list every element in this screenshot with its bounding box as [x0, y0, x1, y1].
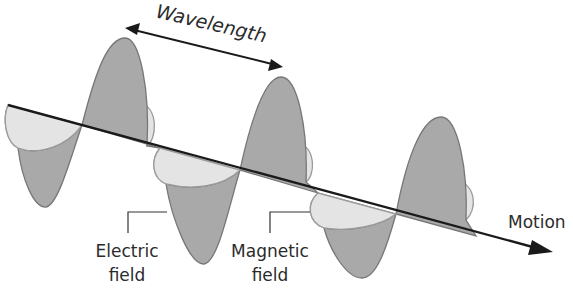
motion-label: Motion	[508, 212, 566, 232]
wavelength-indicator: Wavelength	[125, 0, 283, 71]
magnetic-field-label-line1: Magnetic	[231, 241, 309, 261]
electric-callout-line	[128, 212, 167, 233]
electric-field-label-line1: Electric	[96, 241, 159, 261]
electric-field-label-line2: field	[109, 265, 146, 285]
magnetic-callout-line	[270, 212, 310, 233]
motion-arrowhead-icon	[528, 240, 553, 255]
wavelength-arrow-right-icon	[268, 59, 283, 71]
em-wave-diagram: Wavelength Electric field Magnetic field…	[0, 0, 573, 289]
diagram-svg: Wavelength Electric field Magnetic field…	[0, 0, 573, 289]
magnetic-field-label-line2: field	[252, 265, 289, 285]
wavelength-arrow-left-icon	[125, 23, 140, 35]
